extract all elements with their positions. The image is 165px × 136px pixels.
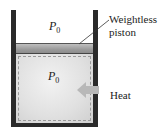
heat-arrow-icon: [75, 80, 115, 100]
piston-label: Weightless piston: [109, 13, 157, 39]
heat-label: Heat: [110, 89, 131, 101]
